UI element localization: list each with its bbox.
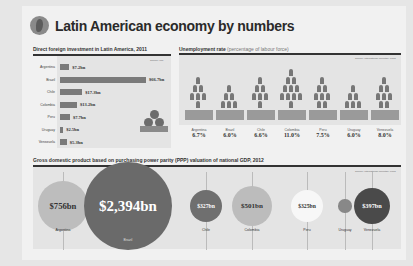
fdi-row-venezuela: Venezuela$5.3bn	[33, 137, 181, 147]
gdp-country-label: Peru	[287, 228, 327, 232]
unemployment-source: Source: International Monetary Fund	[355, 57, 396, 60]
gdp-country-label: Venezuela	[352, 228, 392, 232]
header: Latin American economy by numbers	[30, 16, 294, 35]
fdi-value: $17.3bn	[85, 90, 100, 95]
person-icon	[298, 93, 302, 100]
gdp-bubble-uruguay	[338, 199, 351, 212]
gdp-country-label: Brazil	[108, 238, 148, 242]
fdi-country-label: Brazil	[33, 78, 58, 82]
fdi-chart: Argentina$7.2bnBrazil$66.7bnChile$17.3bn…	[33, 62, 181, 148]
person-icon	[379, 101, 383, 108]
fdi-bar	[60, 114, 70, 120]
unemployment-label-chile: Chile6.6%	[247, 128, 275, 138]
unemployment-label-brazil: Brazil6.0%	[216, 128, 244, 138]
person-icon	[292, 77, 296, 84]
fdi-country-label: Argentina	[33, 65, 58, 69]
fdi-value: $5.3bn	[70, 140, 83, 145]
fdi-country-label: Colombia	[33, 103, 58, 107]
gdp-bubble-brazil: $2,394bn	[84, 162, 172, 250]
person-icon	[320, 77, 324, 84]
person-icon	[385, 101, 389, 108]
fdi-bar	[60, 127, 63, 133]
fdi-value: $13.2bn	[80, 102, 95, 107]
person-icon	[199, 85, 203, 92]
fdi-value: $2.5bn	[66, 127, 79, 132]
flag-brazil	[216, 110, 244, 120]
unemployment-title-main: Unemployment rate	[179, 46, 226, 52]
person-icon	[388, 93, 392, 100]
person-icon	[385, 85, 389, 92]
person-icon	[258, 77, 262, 84]
fdi-row-chile: Chile$17.3bn	[33, 87, 181, 97]
unemployment-figures-venezuela	[371, 70, 399, 120]
gdp-country-label: Chile	[186, 228, 226, 232]
fdi-country-label: Venezuela	[33, 140, 58, 144]
person-icon	[351, 85, 355, 92]
fdi-title: Direct foreign investment in Latin Ameri…	[33, 46, 147, 52]
person-icon	[289, 69, 293, 76]
unemployment-title: Unemployment rate (percentage of labour …	[179, 46, 289, 52]
person-icon	[317, 101, 321, 108]
person-icon	[258, 93, 262, 100]
unemployment-figures-peru	[309, 70, 337, 120]
person-icon	[196, 101, 200, 108]
unemployment-value: 6.7%	[185, 132, 213, 138]
fdi-value: $7.2bn	[72, 65, 85, 70]
person-icon	[255, 85, 259, 92]
unemployment-figures-uruguay	[340, 70, 368, 120]
person-icon	[382, 93, 386, 100]
person-icon	[202, 93, 206, 100]
person-icon	[295, 85, 299, 92]
gdp-bubble-venezuela: $397bn	[354, 188, 390, 224]
person-icon	[376, 93, 380, 100]
unemployment-figures-chile	[247, 70, 275, 120]
person-icon	[193, 85, 197, 92]
person-icon	[345, 101, 349, 108]
unemployment-subtitle: (percentage of labour force)	[227, 46, 289, 52]
unemployment-label-peru: Peru7.5%	[309, 128, 337, 138]
person-icon	[357, 101, 361, 108]
unemployment-value: 7.5%	[309, 132, 337, 138]
unemployment-value: 6.0%	[216, 132, 244, 138]
fdi-row-brazil: Brazil$66.7bn	[33, 75, 181, 85]
person-icon	[326, 93, 330, 100]
fdi-bar	[60, 102, 77, 108]
fdi-bar	[60, 89, 82, 95]
fdi-value: $66.7bn	[149, 77, 164, 82]
fdi-country-label: Peru	[33, 115, 58, 119]
fdi-value: $7.7bn	[73, 115, 86, 120]
gdp-title: Gross domestic product based on purchasi…	[33, 157, 264, 163]
fdi-bar	[60, 64, 69, 70]
unemployment-figures-colombia	[278, 70, 306, 120]
person-icon	[292, 93, 296, 100]
gdp-country-label: Colombia	[232, 228, 272, 232]
globe-icon	[30, 16, 49, 35]
fdi-bar	[60, 139, 67, 145]
gdp-bubble-argentina: $756bn	[38, 181, 87, 230]
person-icon	[286, 93, 290, 100]
person-icon	[317, 85, 321, 92]
person-icon	[348, 93, 352, 100]
unemployment-value: 8.0%	[371, 132, 399, 138]
person-icon	[221, 101, 225, 108]
unemployment-label-colombia: Colombia11.0%	[278, 128, 306, 138]
person-icon	[354, 93, 358, 100]
unemployment-label-argentina: Argentina6.7%	[185, 128, 213, 138]
person-icon	[190, 93, 194, 100]
person-icon	[230, 93, 234, 100]
person-icon	[289, 85, 293, 92]
person-icon	[258, 101, 262, 108]
fdi-country-label: Chile	[33, 90, 58, 94]
person-icon	[264, 93, 268, 100]
person-icon	[314, 93, 318, 100]
person-icon	[323, 85, 327, 92]
page-title: Latin American economy by numbers	[55, 18, 294, 34]
person-icon	[196, 93, 200, 100]
gdp-bubble-colombia: $501bn	[232, 186, 272, 226]
person-icon	[227, 101, 231, 108]
fdi-row-argentina: Argentina$7.2bn	[33, 62, 181, 72]
unemployment-value: 6.0%	[340, 132, 368, 138]
money-bags-illustration	[140, 110, 168, 134]
gdp-source: Source: International Monetary Fund	[355, 170, 396, 173]
person-icon	[280, 93, 284, 100]
